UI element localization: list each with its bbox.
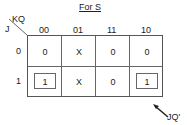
kmap-cell: X — [62, 66, 96, 97]
group-annotation: JQ' — [167, 112, 180, 122]
row-header: 1 — [16, 76, 21, 86]
col-header: 01 — [73, 25, 83, 35]
kmap-cell: X — [62, 36, 96, 67]
col-header: 10 — [141, 25, 151, 35]
kmap-cell: 1 — [28, 66, 62, 97]
kmap-cell: 0 — [130, 36, 164, 67]
kmap-cell: 0 — [96, 66, 130, 97]
row-header: 0 — [16, 46, 21, 56]
kmap-cell: 1 — [130, 66, 164, 97]
kmap-grid: 0 X 0 0 1 X 0 1 — [27, 35, 163, 97]
col-header: 11 — [107, 25, 116, 35]
kmap-cell: 0 — [28, 36, 62, 67]
col-header: 00 — [39, 25, 49, 35]
kmap-cell: 0 — [96, 36, 130, 67]
